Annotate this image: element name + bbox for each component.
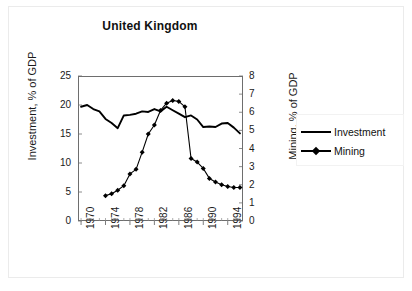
y-axis-right-tick-label: 6 <box>249 107 267 117</box>
legend-item-investment: Investment <box>301 124 385 140</box>
y-axis-right-tick-label: 0 <box>249 216 267 226</box>
y-axis-right-tick-label: 5 <box>249 125 267 135</box>
y-axis-right-tick-label: 7 <box>249 89 267 99</box>
y-axis-left-tick-label: 25 <box>47 71 71 81</box>
plot-canvas <box>78 76 243 221</box>
legend-label-investment: Investment <box>334 126 385 138</box>
y-axis-left-tick-label: 10 <box>47 158 71 168</box>
y-axis-right-tick-label: 4 <box>249 144 267 154</box>
y-axis-right-tick-label: 3 <box>249 162 267 172</box>
chart-legend: Investment Mining <box>296 114 404 166</box>
y-axis-left-title: Investment, % of GDP <box>26 26 38 186</box>
legend-item-mining: Mining <box>301 143 365 159</box>
y-axis-right-tick-label: 2 <box>249 180 267 190</box>
y-axis-left-tick-label: 0 <box>47 216 71 226</box>
y-axis-right-tick-label: 8 <box>249 71 267 81</box>
y-axis-left-tick-label: 20 <box>47 100 71 110</box>
y-axis-left-tick-label: 5 <box>47 187 71 197</box>
chart-title: United Kingdom <box>0 19 300 33</box>
line-key-icon <box>301 125 331 139</box>
chart-figure: United Kingdom Investment, % of GDP Mini… <box>0 0 412 291</box>
y-axis-right-tick-label: 1 <box>249 198 267 208</box>
line-diamond-key-icon <box>301 144 331 158</box>
legend-label-mining: Mining <box>334 145 365 157</box>
series-markers-mining <box>103 98 242 198</box>
y-axis-left-tick-label: 15 <box>47 129 71 139</box>
